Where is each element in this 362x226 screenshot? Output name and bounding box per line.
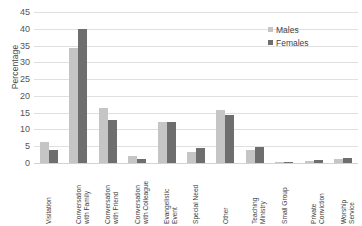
- x-axis-tick-label: Small Group: [281, 164, 289, 224]
- bar-group: [329, 12, 358, 163]
- x-axis-label-cell: Other: [211, 164, 240, 226]
- x-axis-tick-label: Other: [222, 164, 230, 224]
- y-axis-tick-label: 40: [20, 24, 30, 34]
- y-axis-tick-label: 45: [20, 7, 30, 17]
- bar-females: [49, 150, 58, 163]
- y-axis-tick-label: 10: [20, 124, 30, 134]
- bar-males: [246, 150, 255, 163]
- bar-females: [137, 159, 146, 163]
- bar-chart: Percentage 051015202530354045 Visitation…: [0, 0, 362, 226]
- legend-swatch-icon: [268, 27, 273, 32]
- bar-males: [69, 48, 78, 163]
- bar-females: [225, 115, 234, 163]
- x-axis-label-cell: Special Need: [181, 164, 210, 226]
- legend-swatch-icon: [268, 40, 273, 45]
- x-axis-tick-label: PrivateConviction: [310, 164, 325, 224]
- bar-females: [255, 147, 264, 163]
- bar-males: [216, 110, 225, 163]
- legend-label: Females: [276, 38, 309, 48]
- bar-group: [63, 12, 92, 163]
- bar-group: [93, 12, 122, 163]
- bar-males: [275, 162, 284, 163]
- y-axis-tick-label: 0: [25, 158, 30, 168]
- bar-group: [211, 12, 240, 163]
- x-axis-tick-label: TeachingMinistry: [251, 164, 266, 224]
- bar-males: [334, 159, 343, 163]
- y-axis-tick-label: 35: [20, 41, 30, 51]
- bar-group: [122, 12, 151, 163]
- x-axis-label-cell: Visitation: [34, 164, 63, 226]
- bar-females: [108, 120, 117, 163]
- bar-males: [158, 122, 167, 163]
- y-axis-title: Percentage: [10, 27, 20, 107]
- bar-group: [152, 12, 181, 163]
- x-axis-labels: VisitationConversationwith FamilyConvers…: [34, 164, 358, 226]
- x-axis-label-cell: TeachingMinistry: [240, 164, 269, 226]
- bar-females: [284, 162, 293, 163]
- x-axis-tick-label: WorshipService: [340, 164, 355, 224]
- bar-males: [305, 161, 314, 163]
- bar-group: [34, 12, 63, 163]
- y-axis-tick-label: 5: [25, 141, 30, 151]
- bar-females: [167, 122, 176, 163]
- x-axis-label-cell: EvangelisticEvent: [152, 164, 181, 226]
- y-axis-tick-label: 30: [20, 57, 30, 67]
- bars-layer: [34, 12, 358, 163]
- x-axis-tick-label: Special Need: [192, 164, 200, 224]
- x-axis-label-cell: PrivateConviction: [299, 164, 328, 226]
- plot-area: 051015202530354045: [34, 12, 358, 163]
- x-axis-label-cell: Conversationwith Family: [63, 164, 92, 226]
- bar-males: [40, 142, 49, 163]
- chart-legend: MalesFemales: [268, 23, 309, 49]
- bar-males: [187, 152, 196, 163]
- bar-males: [128, 156, 137, 163]
- bar-males: [99, 108, 108, 163]
- x-axis-label-cell: Conversationwith Colleague: [122, 164, 151, 226]
- legend-item-females[interactable]: Females: [268, 36, 309, 49]
- x-axis-label-cell: WorshipService: [329, 164, 358, 226]
- y-axis-tick-label: 15: [20, 108, 30, 118]
- x-axis-tick-label: Visitation: [45, 164, 53, 224]
- bar-group: [240, 12, 269, 163]
- x-axis-label-cell: Small Group: [270, 164, 299, 226]
- bar-females: [196, 148, 205, 163]
- bar-females: [78, 29, 87, 163]
- x-axis-tick-label: Conversationwith Family: [75, 164, 90, 224]
- legend-item-males[interactable]: Males: [268, 23, 309, 36]
- bar-group: [181, 12, 210, 163]
- legend-label: Males: [276, 25, 299, 35]
- x-axis-tick-label: EvangelisticEvent: [163, 164, 178, 224]
- y-axis-tick-label: 25: [20, 74, 30, 84]
- x-axis-tick-label: Conversationwith Friend: [104, 164, 119, 224]
- x-axis-tick-label: Conversationwith Colleague: [134, 164, 149, 224]
- y-axis-tick-label: 20: [20, 91, 30, 101]
- x-axis-label-cell: Conversationwith Friend: [93, 164, 122, 226]
- bar-females: [314, 160, 323, 163]
- bar-females: [343, 158, 352, 163]
